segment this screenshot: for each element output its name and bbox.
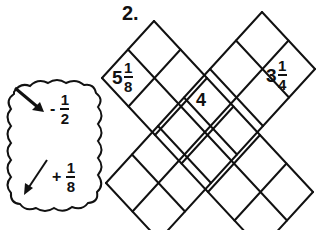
rule-fraction: 1 8 (66, 160, 75, 194)
rule-down-left: + 1 8 (52, 160, 75, 194)
rule-sign: + (52, 169, 61, 185)
cell-fraction: 1 8 (124, 60, 133, 94)
problem-number: 2. (122, 3, 139, 23)
cell-fraction: 1 4 (278, 58, 287, 92)
grid-cell-center[interactable]: 4 (196, 91, 206, 109)
worksheet: 2. - 1 2 + 1 8 5 1 (0, 0, 318, 230)
numerator: 1 (278, 58, 286, 73)
grid-cell-left-tip[interactable]: 5 1 8 (112, 60, 133, 94)
numerator: 1 (61, 92, 69, 107)
rule-fraction: 1 2 (60, 92, 69, 126)
denominator: 8 (67, 179, 75, 194)
denominator: 2 (61, 111, 69, 126)
denominator: 4 (278, 77, 286, 92)
rule-down-right: - 1 2 (50, 92, 69, 126)
numerator: 1 (124, 60, 132, 75)
numerator: 1 (67, 160, 75, 175)
whole-number: 5 (112, 68, 123, 87)
whole-number: 3 (266, 66, 277, 85)
denominator: 8 (124, 79, 132, 94)
grid-cell-right-tip[interactable]: 3 1 4 (266, 58, 287, 92)
rule-sign: - (50, 101, 55, 117)
